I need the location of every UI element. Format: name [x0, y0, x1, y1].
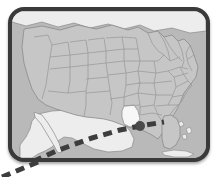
landfall-marker [135, 121, 145, 131]
us-map-svg [12, 11, 206, 158]
map-figure [0, 0, 223, 177]
map-frame-inner [12, 11, 206, 158]
map-canvas [12, 11, 206, 158]
storm-track-tail [2, 162, 38, 177]
map-frame-bezel [8, 7, 210, 162]
